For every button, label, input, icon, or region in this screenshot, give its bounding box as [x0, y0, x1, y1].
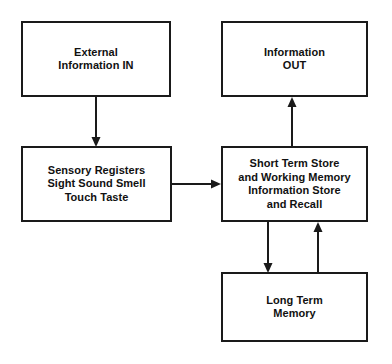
node-external-information-in[interactable]: External Information IN [21, 21, 171, 97]
edge-short-term-to-information-out [288, 97, 297, 146]
node-label-external-information-in: External Information IN [58, 46, 133, 73]
node-label-information-out: Information OUT [264, 46, 325, 73]
node-short-term-store[interactable]: Short Term Store and Working Memory Info… [221, 146, 368, 222]
edge-sensory-to-short-term [172, 180, 221, 189]
diagram-canvas: External Information IN Information OUT … [0, 0, 392, 364]
edge-external-to-sensory [92, 97, 101, 147]
node-label-short-term-store: Short Term Store and Working Memory Info… [238, 157, 351, 211]
node-label-sensory-registers: Sensory Registers Sight Sound Smell Touc… [47, 164, 145, 205]
edge-long-term-to-short-term [314, 222, 323, 272]
node-label-long-term-memory: Long Term Memory [266, 294, 322, 321]
edge-short-term-to-long-term [264, 222, 273, 273]
node-information-out[interactable]: Information OUT [221, 21, 368, 97]
node-long-term-memory[interactable]: Long Term Memory [221, 272, 368, 342]
node-sensory-registers[interactable]: Sensory Registers Sight Sound Smell Touc… [21, 146, 172, 222]
